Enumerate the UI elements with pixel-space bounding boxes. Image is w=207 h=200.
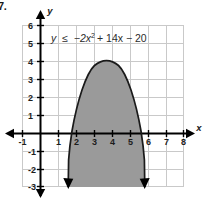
- y-axis-down-arrow: [36, 189, 45, 198]
- y-tick-label: -2: [28, 165, 36, 175]
- x-tick-label: 6: [146, 137, 151, 147]
- x-tick-label: 8: [181, 137, 186, 147]
- svg-text:y ≤ −2x2+ 14x: y ≤ −2x2+ 14x − 20: [50, 32, 147, 44]
- x-tick-label: 5: [128, 137, 133, 147]
- x-axis-label: x: [195, 122, 202, 133]
- y-tick-label: 6: [28, 21, 33, 31]
- y-axis-label: y: [46, 5, 53, 16]
- x-tick-label: -1: [18, 137, 26, 147]
- inequality-rhs-a: −2x: [74, 32, 92, 44]
- inequality-lhs: y: [50, 32, 57, 44]
- y-tick-label: 2: [28, 93, 33, 103]
- x-tick-label: 4: [110, 137, 115, 147]
- y-tick-label: -1: [28, 147, 36, 157]
- inequality-relation: ≤: [62, 32, 68, 44]
- y-tick-label: 1: [28, 111, 33, 121]
- x-tick-label: 3: [92, 137, 97, 147]
- x-axis-right-arrow: [186, 129, 195, 138]
- y-tick-label: 4: [28, 57, 33, 67]
- y-tick-label: 5: [28, 39, 33, 49]
- x-axis-left-arrow: [5, 129, 14, 138]
- x-tick-label: 7: [164, 137, 169, 147]
- worksheet-figure: 7.: [0, 0, 207, 200]
- y-tick-label: -3: [28, 182, 36, 192]
- x-tick-label: 1: [56, 137, 61, 147]
- y-tick-labels: 6 5 4 3 2 1 -1 -2 -3: [28, 21, 36, 192]
- inequality-rhs-b: + 14x − 20: [97, 32, 147, 44]
- inequality-exponent: 2: [91, 32, 95, 39]
- x-tick-label: 2: [74, 137, 79, 147]
- coordinate-plane-graph: -1 1 2 3 4 5 6 7 8 6 5 4 3 2 1 -1 -2 -3 …: [0, 0, 207, 200]
- y-axis-up-arrow: [36, 10, 45, 19]
- inequality-label: y ≤ −2x2+ 14x − 20: [50, 32, 147, 44]
- y-tick-label: 3: [28, 75, 33, 85]
